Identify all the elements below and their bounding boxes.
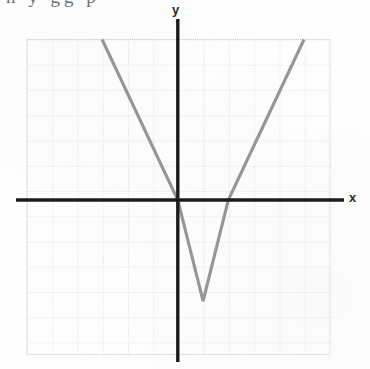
y-axis-label: y	[172, 2, 179, 17]
x-axis-label: x	[349, 190, 356, 205]
graph-svg	[0, 0, 370, 369]
coordinate-graph: y x	[0, 0, 370, 369]
worksheet-page: n y gg p y x	[0, 0, 370, 369]
